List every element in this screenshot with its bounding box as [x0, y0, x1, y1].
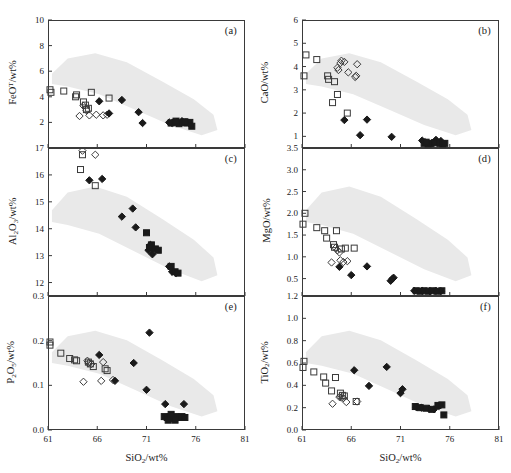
y-axis-title: FeOT/wt% [7, 60, 18, 105]
data-point-open-square [324, 235, 330, 241]
data-point-filled-diamond [365, 382, 372, 389]
data-point-filled-square [144, 230, 150, 236]
y-axis-tick-label: 0.4 [287, 380, 298, 390]
x-axis-tick-label: 61 [44, 434, 53, 444]
data-point-open-square [351, 245, 357, 251]
y-axis-tick-label: 2.0 [287, 208, 298, 218]
data-point-filled-square [175, 270, 181, 276]
data-point-filled-square [146, 245, 152, 251]
panel-label-c: (c) [225, 153, 237, 164]
panel-label-e: (e) [225, 301, 237, 312]
data-point-filled-square [429, 406, 435, 412]
y-axis-tick-label: 0.6 [287, 358, 298, 368]
y-axis-tick-label: 5 [294, 38, 299, 48]
series-open-diamond [79, 147, 99, 158]
data-point-filled-diamond [96, 98, 103, 105]
data-point-open-square [321, 374, 327, 380]
data-point-filled-square [182, 119, 188, 125]
y-axis-tick-label: 1.0 [287, 252, 298, 262]
data-point-filled-diamond [388, 133, 395, 140]
x-axis-tick-label: 66 [347, 434, 356, 444]
y-axis-tick-label: 2 [294, 108, 299, 118]
shaded-field [306, 331, 471, 417]
harker-variation-diagram: 246810FeOT/wt%(a)123456CaO/wt%(b)1213141… [0, 0, 511, 473]
data-point-open-square [329, 388, 335, 394]
scatter-plot-area [48, 20, 245, 148]
data-point-filled-square [439, 402, 445, 408]
y-axis-tick-label: 1 [294, 131, 299, 141]
y-axis-tick-label: 4 [40, 92, 45, 102]
y-axis-title: P2O5/wt% [5, 341, 18, 384]
chart-panel-d: 0.51.01.52.02.53.03.5MgO/wt%(d) [302, 148, 499, 296]
y-axis-tick-label: 0.2 [33, 336, 44, 346]
data-point-filled-square [417, 405, 423, 411]
y-axis-tick-label: 10 [35, 15, 44, 25]
y-axis-tick-label: 0.2 [287, 403, 298, 413]
data-point-open-square [344, 110, 350, 116]
series-filled-square [413, 288, 445, 294]
data-point-open-square [78, 167, 84, 173]
data-point-open-square [322, 228, 328, 234]
chart-panel-c: 121314151617Al2O3/wt%(c) [48, 148, 245, 296]
y-axis-tick-label: 6 [294, 15, 299, 25]
x-axis-tick-label: 76 [445, 434, 454, 444]
y-axis-tick-label: 0.3 [33, 291, 44, 301]
shaded-field [306, 53, 471, 135]
shaded-field [52, 331, 217, 417]
y-axis-tick-label: 3.0 [287, 165, 298, 175]
x-axis-title: SiO2/wt% [379, 452, 421, 465]
x-axis-tick-label: 71 [142, 434, 151, 444]
y-axis-tick-label: 1.0 [287, 313, 298, 323]
y-axis-tick-label: 14 [35, 224, 44, 234]
y-axis-tick-label: 1.2 [287, 291, 298, 301]
y-axis-tick-label: 1.5 [287, 230, 298, 240]
data-point-filled-diamond [341, 116, 348, 123]
y-axis-tick-label: 0.5 [287, 274, 298, 284]
panel-label-b: (b) [478, 25, 491, 36]
data-point-filled-diamond [139, 119, 146, 126]
y-axis-tick-label: 0.0 [287, 425, 298, 435]
series-filled-square [161, 411, 188, 423]
y-axis-tick-label: 8 [40, 41, 45, 51]
data-point-open-diamond [93, 111, 100, 118]
x-axis-title: SiO2/wt% [125, 452, 167, 465]
shaded-field [52, 186, 217, 281]
chart-panel-f: 0.00.20.40.60.81.01.26166717681SiO2/wt%T… [302, 296, 499, 430]
scatter-plot-area [302, 148, 499, 296]
chart-panel-b: 123456CaO/wt%(b) [302, 20, 499, 148]
chart-panel-e: 0.00.10.20.36166717681SiO2/wt%P2O5/wt%(e… [48, 296, 245, 430]
y-axis-tick-label: 16 [35, 170, 44, 180]
y-axis-tick-label: 0.0 [33, 425, 44, 435]
data-point-filled-diamond [99, 175, 106, 182]
data-point-filled-square [168, 411, 174, 417]
chart-panel-a: 246810FeOT/wt%(a) [48, 20, 245, 148]
panel-label-d: (d) [478, 153, 491, 164]
data-point-filled-diamond [363, 116, 370, 123]
y-axis-tick-label: 17 [35, 143, 44, 153]
panel-label-a: (a) [225, 25, 237, 36]
data-point-open-square [61, 88, 67, 94]
data-point-open-square [330, 100, 336, 106]
data-point-open-square [314, 225, 320, 231]
data-point-filled-square [189, 123, 195, 129]
y-axis-tick-label: 0.8 [287, 336, 298, 346]
y-axis-tick-label: 2.5 [287, 187, 298, 197]
shaded-field [306, 186, 471, 281]
data-point-filled-square [182, 414, 188, 420]
data-point-filled-square [423, 405, 429, 411]
series-filled-square [421, 139, 448, 147]
scatter-plot-area [48, 296, 245, 430]
y-axis-tick-label: 4 [294, 62, 299, 72]
data-point-filled-square [441, 412, 447, 418]
data-point-open-square [334, 91, 340, 97]
data-point-filled-square [439, 288, 445, 294]
data-point-open-square [300, 221, 306, 227]
y-axis-tick-label: 2 [40, 117, 45, 127]
y-axis-tick-label: 0.1 [33, 380, 44, 390]
series-open-diamond [329, 393, 361, 407]
x-axis-tick-label: 61 [298, 434, 307, 444]
data-point-open-diamond [80, 378, 87, 385]
x-axis-tick-label: 71 [396, 434, 405, 444]
data-point-filled-diamond [348, 271, 355, 278]
data-point-filled-square [172, 417, 178, 423]
